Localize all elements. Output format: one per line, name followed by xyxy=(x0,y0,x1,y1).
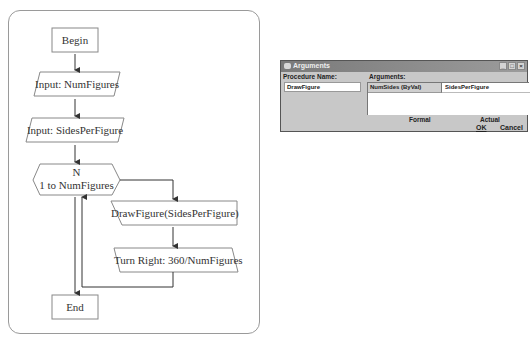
procedure-name-label: Procedure Name: xyxy=(283,73,337,80)
minimize-icon[interactable]: _ xyxy=(499,62,507,70)
procedure-list-item[interactable]: DrawFigure xyxy=(284,82,361,92)
begin-label: Begin xyxy=(52,34,98,46)
dialog-title: Arguments xyxy=(293,62,330,69)
loop-var-label: N xyxy=(33,166,120,178)
actual-column-label: Actual xyxy=(480,116,500,123)
dialog-titlebar[interactable]: Arguments _ □ × xyxy=(281,61,527,72)
arguments-table: NumSides (ByVal) SidesPerFigure xyxy=(367,82,529,115)
formal-argument-cell[interactable]: NumSides (ByVal) xyxy=(368,83,442,93)
loop-range-label: 1 to NumFigures xyxy=(33,179,120,191)
end-label: End xyxy=(52,301,98,313)
input-sidesperfigure-label: Input: SidesPerFigure xyxy=(26,124,124,136)
arguments-dialog: Arguments _ □ × Procedure Name: DrawFigu… xyxy=(280,60,528,132)
ok-button[interactable]: OK xyxy=(476,124,487,131)
app-icon xyxy=(284,63,291,69)
turn-right-label: Turn Right: 360/NumFigures xyxy=(114,254,238,266)
maximize-icon[interactable]: □ xyxy=(508,62,516,70)
drawfigure-label: DrawFigure(SidesPerFigure) xyxy=(111,207,237,219)
formal-column-label: Formal xyxy=(409,116,431,123)
actual-argument-cell[interactable]: SidesPerFigure xyxy=(442,83,530,93)
input-numfigures-label: Input: NumFigures xyxy=(34,78,120,90)
close-icon[interactable]: × xyxy=(517,62,525,70)
arguments-label: Arguments: xyxy=(369,73,405,80)
cancel-button[interactable]: Cancel xyxy=(500,124,523,131)
